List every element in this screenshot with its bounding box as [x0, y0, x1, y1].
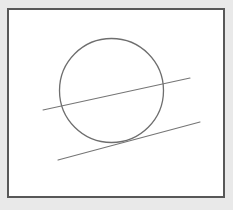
figure-root: Circle with a secant line and a tangent …: [0, 0, 233, 210]
drawing-frame: [8, 9, 224, 197]
geometry-figure-canvas: Circle with a secant line and a tangent …: [0, 0, 233, 210]
